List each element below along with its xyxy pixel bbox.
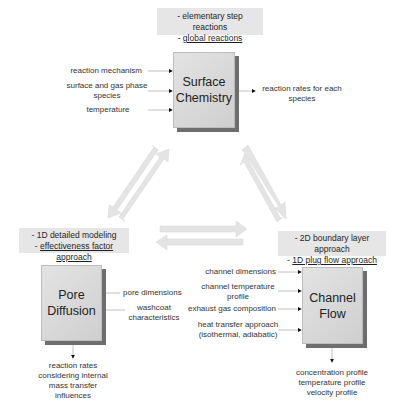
surface-input-species: surface and gas phase species bbox=[66, 81, 148, 101]
channel-input-temperature-profile: channel temperature profile bbox=[198, 282, 278, 302]
pore-input-lines bbox=[103, 293, 125, 310]
coupling-arrow-surface-pore bbox=[108, 145, 169, 222]
surface-approaches-box: - elementary step reactions - global rea… bbox=[157, 8, 263, 35]
channel-flow-title-2: Flow bbox=[309, 306, 356, 322]
pore-approach-2-text: effectiveness factor approach bbox=[40, 241, 113, 262]
channel-approach-2-text: 1D plug flow approach bbox=[292, 255, 377, 265]
pore-approach-2: - effectiveness factor approach bbox=[25, 241, 123, 263]
pore-approaches-box: - 1D detailed modeling - effectiveness f… bbox=[19, 228, 129, 253]
channel-input-gas-composition: exhaust gas composition bbox=[188, 304, 276, 314]
surface-input-reaction-mechanism: reaction mechanism bbox=[70, 66, 142, 76]
channel-input-dimensions: channel dimensions bbox=[205, 267, 276, 277]
channel-input-heat-transfer: heat transfer approach (isothermal, adia… bbox=[194, 320, 282, 340]
pore-diffusion-block: Pore Diffusion bbox=[41, 265, 102, 341]
surface-chemistry-block: Surface Chemistry bbox=[173, 52, 235, 128]
surface-chemistry-title-1: Surface bbox=[176, 74, 232, 90]
channel-approach-2: - 1D plug flow approach bbox=[284, 255, 380, 266]
channel-approaches-box: - 2D boundary layer approach - 1D plug f… bbox=[278, 231, 386, 256]
pore-input-washcoat: washcoat characteristics bbox=[126, 303, 182, 323]
surface-output-rates: reaction rates for each species bbox=[259, 84, 345, 104]
pore-approach-1: - 1D detailed modeling bbox=[25, 230, 123, 241]
pore-output-rates: reaction rates considering internal mass… bbox=[34, 361, 112, 401]
coupling-arrow-surface-channel bbox=[240, 145, 286, 222]
pore-input-dimensions: pore dimensions bbox=[123, 288, 182, 298]
pore-diffusion-title-1: Pore bbox=[47, 287, 95, 303]
surface-approach-1: - elementary step reactions bbox=[163, 11, 257, 33]
surface-chemistry-title-2: Chemistry bbox=[176, 90, 232, 106]
pore-diffusion-title-2: Diffusion bbox=[47, 303, 95, 319]
surface-input-lines bbox=[148, 71, 172, 110]
channel-flow-title-1: Channel bbox=[309, 290, 356, 306]
channel-output-profiles: concentration profile temperature profil… bbox=[289, 368, 375, 398]
surface-input-temperature: temperature bbox=[80, 105, 136, 115]
channel-approach-1: - 2D boundary layer approach bbox=[284, 233, 380, 255]
surface-approach-2-text: global reactions bbox=[183, 33, 243, 43]
coupling-arrow-pore-channel bbox=[156, 221, 247, 250]
surface-approach-2: - global reactions bbox=[163, 33, 257, 44]
channel-flow-block: Channel Flow bbox=[302, 267, 363, 344]
